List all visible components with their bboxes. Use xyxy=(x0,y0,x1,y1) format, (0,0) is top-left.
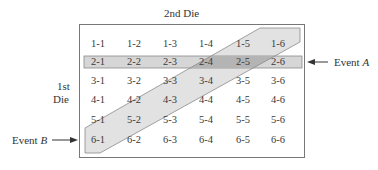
outcome-cell: 4-3 xyxy=(163,95,177,106)
outcome-cell: 4-6 xyxy=(271,95,285,106)
event-a-prefix: Event xyxy=(334,56,362,68)
event-b-arrow-icon xyxy=(52,137,78,143)
outcome-cell: 6-5 xyxy=(236,135,250,146)
outcome-cell: 6-4 xyxy=(199,135,213,146)
sample-space-diagram: 2nd Die 1st Die Event A Event B 1-11-21-… xyxy=(0,0,378,170)
event-b-prefix: Event xyxy=(12,134,40,146)
outcome-cell: 2-2 xyxy=(127,57,141,68)
outcome-cell: 3-1 xyxy=(91,76,105,87)
outcome-cell: 6-2 xyxy=(127,135,141,146)
outcome-cell: 5-5 xyxy=(236,115,250,126)
outcome-cell: 5-3 xyxy=(163,115,177,126)
first-die-label-line1: 1st xyxy=(57,81,70,92)
outcome-cell: 2-3 xyxy=(163,57,177,68)
outcome-cell: 1-1 xyxy=(91,39,105,50)
event-b-name: B xyxy=(40,134,47,146)
outcome-cell: 2-5 xyxy=(236,57,250,68)
event-a-name: A xyxy=(362,56,369,68)
outcome-cell: 6-6 xyxy=(271,135,285,146)
outcome-cell: 5-6 xyxy=(271,115,285,126)
outcome-cell: 6-3 xyxy=(163,135,177,146)
outcome-cell: 2-4 xyxy=(199,57,213,68)
outcome-cell: 5-2 xyxy=(127,115,141,126)
outcome-cell: 1-5 xyxy=(236,39,250,50)
outcome-cell: 1-4 xyxy=(199,39,213,50)
outcome-cell: 4-2 xyxy=(127,95,141,106)
outcome-cell: 4-4 xyxy=(199,95,213,106)
event-a-label: Event A xyxy=(334,57,369,68)
event-a-arrow-icon xyxy=(307,59,328,65)
outcome-cell: 1-3 xyxy=(163,39,177,50)
outcome-cell: 3-3 xyxy=(163,76,177,87)
event-b-label: Event B xyxy=(12,135,47,146)
outcome-cell: 5-1 xyxy=(91,115,105,126)
outcome-cell: 1-2 xyxy=(127,39,141,50)
outcome-cell: 4-1 xyxy=(91,95,105,106)
outcome-cell: 4-5 xyxy=(236,95,250,106)
outcome-cell: 3-5 xyxy=(236,76,250,87)
second-die-label: 2nd Die xyxy=(164,8,199,19)
outcome-cell: 1-6 xyxy=(271,39,285,50)
first-die-label-line2: Die xyxy=(53,94,69,105)
outcome-cell: 2-1 xyxy=(91,57,105,68)
outcome-cell: 3-2 xyxy=(127,76,141,87)
outcome-cell: 3-4 xyxy=(199,76,213,87)
outcome-cell: 2-6 xyxy=(271,57,285,68)
outcome-cell: 5-4 xyxy=(199,115,213,126)
outcome-cell: 6-1 xyxy=(91,135,105,146)
outcome-cell: 3-6 xyxy=(271,76,285,87)
